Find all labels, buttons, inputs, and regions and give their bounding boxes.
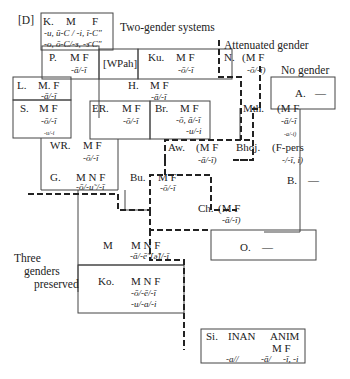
node-gender: INAN bbox=[228, 331, 256, 342]
node-forms: -ō/-u˜/-ī bbox=[76, 183, 105, 192]
node-forms: -o, ō-C/-ɜ, -ɜ̄ C" bbox=[44, 40, 102, 49]
node-forms: -ī, -i bbox=[283, 355, 299, 364]
node-gender: ANIM bbox=[270, 331, 299, 342]
node-forms: -u, ū-C / -i, ī-C" bbox=[44, 29, 102, 38]
node-gender: (M F bbox=[277, 103, 299, 114]
node-name: Bu. bbox=[130, 172, 146, 183]
node-forms: -ā/-ē˜[ə̃]/-ī bbox=[130, 252, 169, 261]
node-gender: — bbox=[308, 175, 319, 186]
node-name: ER. bbox=[92, 103, 109, 114]
node-forms: -u/-a/-i bbox=[131, 300, 157, 309]
node-gender: M N F bbox=[131, 240, 160, 251]
node-forms: -u/-i bbox=[186, 127, 202, 136]
node-gender: M F bbox=[39, 103, 58, 114]
node-name: H. bbox=[128, 80, 139, 91]
node-gender: (M F bbox=[242, 52, 264, 63]
node-forms: -ā/-ī) bbox=[222, 216, 241, 225]
node-forms: -ō/-ī bbox=[83, 154, 99, 163]
attenuated-gender-label: Attenuated gender bbox=[224, 40, 309, 51]
node-gender: M F bbox=[83, 140, 102, 151]
node-name: Ko. bbox=[98, 276, 114, 287]
node-forms: -ō/-ī bbox=[160, 184, 176, 193]
node-forms: -ā/-ī bbox=[151, 93, 167, 102]
node-gender: — bbox=[315, 88, 326, 99]
node-name: P. bbox=[49, 52, 57, 63]
node-name: Ku. bbox=[148, 52, 164, 63]
node-gender: M F bbox=[70, 52, 89, 63]
node-forms: -ā/-ī) bbox=[198, 156, 217, 165]
node-wpah: [WPah] bbox=[103, 58, 137, 69]
node-gender: M N F bbox=[131, 276, 160, 287]
node-name: Br. bbox=[155, 103, 168, 114]
dialect-label-d: [D] bbox=[18, 15, 34, 26]
node-name: Aw. bbox=[168, 142, 185, 153]
node-name: K. bbox=[43, 16, 54, 27]
node-gender: M F bbox=[180, 103, 199, 114]
node-forms: -ō/-ē/-ī bbox=[131, 289, 156, 298]
node-gender: F bbox=[92, 16, 98, 27]
node-gender: M F bbox=[122, 103, 141, 114]
node-forms: -ā/-ī bbox=[281, 117, 297, 126]
node-name: N. bbox=[224, 52, 235, 63]
node-gender: (F-pers bbox=[272, 142, 304, 153]
node-forms: -ā/-ī bbox=[71, 66, 87, 75]
no-gender-label: No gender bbox=[281, 65, 329, 76]
node-gender: M F bbox=[272, 343, 291, 354]
node-forms: -ō/-ī bbox=[178, 66, 194, 75]
node-name: Mth. bbox=[243, 103, 264, 114]
three-genders-label-2: genders bbox=[24, 266, 60, 277]
node-gender: M. F bbox=[38, 80, 59, 91]
node-forms: -ā/ bbox=[261, 355, 271, 364]
node-name: G. bbox=[50, 172, 61, 183]
node-gender: (M F bbox=[196, 142, 218, 153]
node-name: B. bbox=[287, 175, 297, 186]
three-genders-label-1: Three bbox=[14, 253, 41, 264]
node-forms: -u/-i bbox=[44, 130, 54, 136]
node-name: S. bbox=[20, 103, 29, 114]
node-forms: -ō/-ī) bbox=[247, 66, 266, 75]
node-name: A. bbox=[295, 88, 306, 99]
node-forms: -ō, ā/-ī bbox=[176, 116, 201, 125]
node-forms: -ā/-ī bbox=[41, 92, 57, 101]
node-forms: -ō/-ī bbox=[123, 117, 139, 126]
node-gender: M F bbox=[150, 80, 169, 91]
node-name: Bhoj. bbox=[236, 142, 260, 153]
three-genders-label-3: preserved bbox=[34, 279, 79, 290]
node-gender: — bbox=[262, 242, 273, 253]
two-gender-systems-label: Two-gender systems bbox=[120, 22, 215, 33]
node-name: Si. bbox=[206, 331, 218, 342]
node-name: O. bbox=[240, 242, 251, 253]
node-name: L. bbox=[17, 80, 26, 91]
node-gender: M F bbox=[176, 52, 195, 63]
node-forms: -a/-i) bbox=[284, 131, 296, 137]
node-forms: -a// bbox=[226, 355, 239, 364]
node-gender: M F bbox=[158, 172, 177, 183]
node-forms: -ō/-ī bbox=[41, 117, 57, 126]
node-gender: (M F bbox=[218, 203, 240, 214]
node-forms: -/-ī, i) bbox=[282, 156, 303, 165]
node-gender: M bbox=[66, 16, 76, 27]
node-name: Ch. bbox=[198, 203, 214, 214]
node-name: M bbox=[103, 240, 113, 251]
node-name: WR. bbox=[50, 140, 70, 151]
